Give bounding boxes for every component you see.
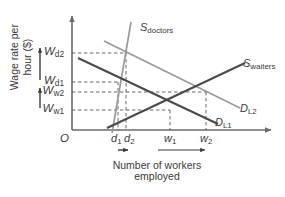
curve-label-d-l1-main: D <box>215 116 223 128</box>
quantity-label-w2-main: w <box>200 132 208 144</box>
curve-label-s-waiters: Swaiters <box>243 58 275 71</box>
quantity-label-w1-sub: 1 <box>172 137 176 146</box>
x-axis-title-line2: employed <box>134 170 180 182</box>
x-axis-title: Number of workers employed <box>92 160 222 182</box>
demand-curve-dl1 <box>78 58 218 124</box>
quantity-label-w2: w2 <box>200 133 212 146</box>
curve-label-d-l2-main: D <box>240 102 248 114</box>
curve-label-d-l2: DL2 <box>240 103 257 116</box>
quantity-label-w1: w1 <box>164 133 176 146</box>
quantity-label-d2-sub: 2 <box>130 137 134 146</box>
wage-label-ww2-sub: w2 <box>53 89 64 98</box>
wage-label-ww1-main: W <box>43 102 54 114</box>
wage-label-ww2-main: W <box>43 84 54 96</box>
labour-market-diagram: Wage rate per hour ($) O Wd2 Wd1 Ww2 Ww1… <box>0 0 285 197</box>
curve-label-s-waiters-sub: waiters <box>250 62 275 71</box>
curve-label-d-l1: DL1 <box>215 117 232 130</box>
wage-label-wd2-main: W <box>44 45 55 57</box>
quantity-label-d2: d2 <box>124 133 135 146</box>
quantity-label-d1-sub: 1 <box>117 137 121 146</box>
curve-label-d-l2-sub: L2 <box>248 107 257 116</box>
origin-label: O <box>60 132 69 144</box>
curve-label-s-doctors: Sdoctors <box>140 22 173 35</box>
quantity-label-w1-main: w <box>164 132 172 144</box>
wage-label-ww1-sub: w1 <box>53 107 64 116</box>
quantity-label-d1: d1 <box>111 133 122 146</box>
wage-label-wd2: Wd2 <box>16 45 64 60</box>
wage-label-ww1: Ww1 <box>16 102 64 117</box>
wage-label-ww2: Ww2 <box>16 84 64 99</box>
curve-label-d-l1-sub: L1 <box>223 121 232 130</box>
wage-label-wd2-sub: d2 <box>55 50 64 59</box>
quantity-label-w2-sub: 2 <box>208 137 212 146</box>
curve-label-s-doctors-sub: doctors <box>147 26 173 35</box>
